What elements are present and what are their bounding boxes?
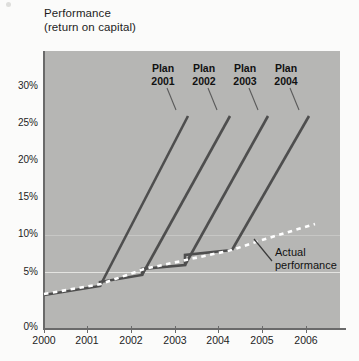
actual-performance-annotation: Actual performance (275, 246, 337, 272)
chart-series-overlay (0, 0, 359, 361)
plan-label-2002: Plan 2002 (187, 62, 221, 87)
plan-label-2001: Plan 2001 (146, 62, 180, 87)
leader-line-actual-performance (254, 239, 272, 261)
leader-line-plan-2002 (208, 88, 217, 110)
plan-label-2003: Plan 2003 (228, 62, 262, 87)
leader-line-plan-2001 (167, 88, 176, 110)
leader-line-plan-2004 (290, 88, 299, 110)
plan-label-2004: Plan 2004 (269, 62, 303, 87)
leader-line-plan-2003 (249, 88, 258, 110)
chart-figure: Performance (return on capital) 30% 25% … (0, 0, 359, 361)
series-plan-2001 (100, 116, 188, 286)
